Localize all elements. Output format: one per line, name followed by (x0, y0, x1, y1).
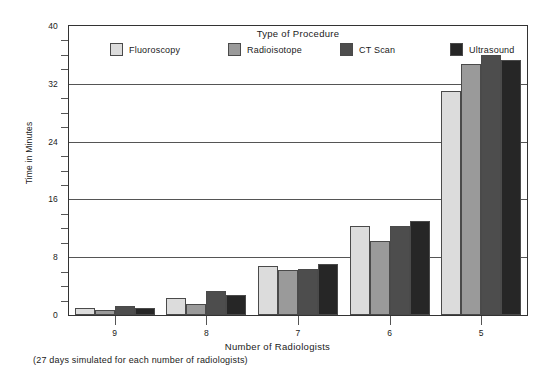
bar (226, 295, 246, 315)
x-axis-tick (298, 316, 299, 325)
y-axis-minor-tick (61, 243, 68, 244)
legend-swatch-icon (110, 43, 123, 56)
y-axis-minor-tick (61, 156, 68, 157)
y-axis-minor-tick (61, 55, 68, 56)
x-axis-tick-label: 7 (296, 328, 301, 338)
x-axis-tick-label: 5 (479, 328, 484, 338)
x-axis-tick-label: 6 (387, 328, 392, 338)
legend-item[interactable]: Radioisotope (228, 43, 302, 56)
x-axis-tick-label: 9 (112, 328, 117, 338)
legend-item[interactable]: CT Scan (340, 43, 395, 56)
legend-item-label: CT Scan (359, 45, 395, 55)
y-axis-minor-tick (61, 69, 68, 70)
y-axis-tick-label: 32 (48, 79, 58, 89)
bar (135, 308, 155, 315)
legend-title: Type of Procedure (68, 28, 528, 39)
bar (75, 308, 95, 315)
bar-chart-figure: Time in Minutes 0816243240 98765 Number … (0, 0, 555, 374)
bar (481, 55, 501, 315)
bar (298, 269, 318, 315)
bar (278, 270, 298, 315)
x-axis-tick (206, 316, 207, 325)
y-axis-minor-tick (61, 214, 68, 215)
x-axis-tick-label: 8 (204, 328, 209, 338)
bar (461, 64, 481, 315)
y-axis-tick-label: 40 (48, 21, 58, 31)
bar (186, 304, 206, 315)
legend-item[interactable]: Fluoroscopy (110, 43, 180, 56)
bars-layer (69, 26, 527, 315)
x-axis-title: Number of Radiologists (0, 341, 555, 352)
y-axis-tick-label: 8 (53, 252, 58, 262)
bar (318, 264, 338, 315)
y-axis-minor-tick (61, 301, 68, 302)
y-axis: Time in Minutes 0816243240 (0, 0, 68, 374)
bar (441, 91, 461, 315)
bar (166, 298, 186, 315)
y-axis-tick-label: 24 (48, 137, 58, 147)
bar (410, 221, 430, 315)
y-axis-title: Time in Minutes (24, 93, 34, 213)
y-axis-minor-tick (61, 272, 68, 273)
bar (350, 226, 370, 315)
bar (115, 306, 135, 315)
legend-item-label: Ultrasound (469, 45, 515, 55)
bar (206, 291, 226, 315)
y-axis-minor-tick (61, 127, 68, 128)
y-axis-minor-tick (61, 185, 68, 186)
y-axis-minor-tick (61, 171, 68, 172)
legend-item[interactable]: Ultrasound (450, 43, 515, 56)
bar (95, 310, 115, 315)
x-axis-tick (390, 316, 391, 325)
y-axis-minor-tick (61, 286, 68, 287)
legend-item-label: Radioisotope (247, 45, 302, 55)
legend-swatch-icon (228, 43, 241, 56)
legend-swatch-icon (450, 43, 463, 56)
y-axis-minor-tick (61, 228, 68, 229)
y-axis-minor-tick (61, 113, 68, 114)
bar (390, 226, 410, 315)
y-axis-tick-label: 16 (48, 194, 58, 204)
legend-item-label: Fluoroscopy (129, 45, 180, 55)
legend-swatch-icon (340, 43, 353, 56)
plot-area (68, 25, 528, 316)
chart-footnote: (27 days simulated for each number of ra… (33, 355, 248, 365)
y-axis-tick-label: 0 (53, 310, 58, 320)
x-axis-tick (481, 316, 482, 325)
bar (258, 266, 278, 315)
y-axis-minor-tick (61, 98, 68, 99)
x-axis-tick (115, 316, 116, 325)
bar (370, 241, 390, 315)
bar (501, 60, 521, 315)
y-axis-minor-tick (61, 40, 68, 41)
